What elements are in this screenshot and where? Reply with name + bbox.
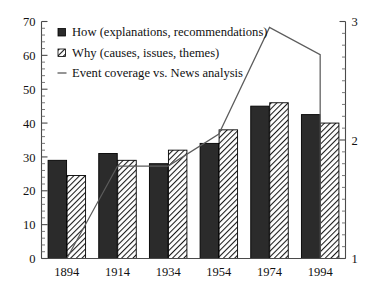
category-label: 1894 [54,265,80,279]
legend-label: How (explanations, recommendations) [72,25,268,39]
legend-label: Event coverage vs. News analysis [72,66,243,80]
legend-label: Why (causes, issues, themes) [72,46,219,60]
bar-why [168,150,187,258]
category-axis-labels: 189419141934195419741994 [42,259,346,279]
bar-series-group [48,103,339,259]
bar-why [67,176,86,259]
left-axis-tick-label: 50 [23,83,36,97]
left-axis-tick-label: 60 [23,49,36,63]
category-label: 1954 [206,265,232,279]
bar-how [149,164,168,259]
chart-plot-area: 010203040506070 123 18941914193419541974… [0,0,386,304]
right-axis-tick-label: 3 [352,15,358,29]
right-axis-tick-label: 2 [352,134,358,148]
right-axis-tick-label: 1 [352,252,358,266]
chart-legend: How (explanations, recommendations)Why (… [58,25,268,80]
bar-why [270,103,289,259]
bar-how [99,154,118,259]
left-axis-tick-label: 70 [23,15,36,29]
left-axis-tick-label: 20 [23,184,36,198]
category-label: 1994 [308,265,334,279]
bar-how [301,115,320,259]
bar-why [118,160,137,258]
bar-why [219,130,238,259]
category-label: 1914 [105,265,131,279]
right-axis: 123 [340,15,358,266]
bar-how [48,160,66,258]
bar-why [320,123,339,258]
category-label: 1974 [257,265,283,279]
category-label: 1934 [156,265,182,279]
legend-marker-hatched-square-icon [58,49,66,57]
left-axis-tick-label: 0 [29,252,35,266]
left-axis: 010203040506070 [23,15,48,266]
bar-how [251,106,270,258]
legend-marker-filled-square-icon [58,29,66,37]
left-axis-tick-label: 10 [23,218,36,232]
left-axis-tick-label: 30 [23,151,36,165]
chart-container: 010203040506070 123 18941914193419541974… [0,0,386,304]
left-axis-tick-label: 40 [23,117,36,131]
bar-how [200,143,219,258]
